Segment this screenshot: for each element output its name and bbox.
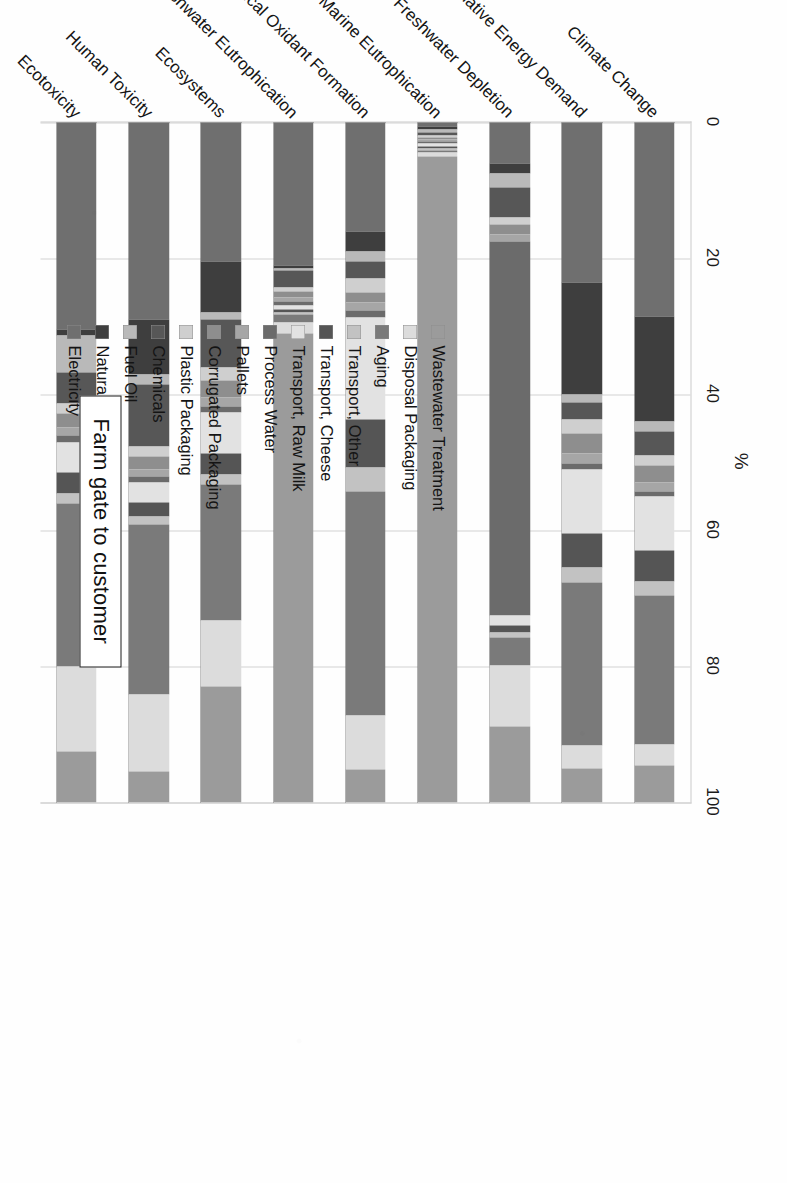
legend-label: Plastic Packaging — [176, 345, 195, 475]
bar-segment — [634, 595, 674, 745]
bar-segment — [489, 163, 529, 173]
bar-segment — [561, 463, 601, 468]
legend-swatch-icon — [95, 325, 108, 338]
bar-segment — [489, 615, 529, 625]
legend-label: Disposal Packaging — [400, 345, 419, 490]
legend-label: Chemicals — [148, 345, 167, 422]
legend-swatch-icon — [67, 325, 80, 338]
legend-label: Transport, Other — [344, 345, 363, 465]
legend-swatch-icon — [319, 325, 332, 338]
category-label: Ecotoxicity — [13, 50, 85, 122]
legend-label: Transport, Raw Milk — [288, 345, 307, 491]
stacked-bar-figure: % 020406080100 Climate ChangeCumulative … — [26, 39, 761, 1144]
bar-segment — [561, 433, 601, 453]
legend-item[interactable]: Pallets — [230, 325, 253, 1085]
legend-item[interactable]: Plastic Packaging — [174, 325, 197, 1085]
legend-item[interactable]: Process Water — [258, 325, 281, 1085]
bar-segment — [561, 533, 601, 567]
bar-segment — [489, 224, 529, 234]
bar-segment — [489, 187, 529, 218]
legend-label: Wastewater Treatment — [428, 345, 447, 510]
legend-swatch-icon — [235, 325, 248, 338]
bar-segment — [489, 632, 529, 637]
legend-swatch-icon — [263, 325, 276, 338]
stacked-bar[interactable] — [634, 122, 674, 802]
bar-segment — [561, 469, 601, 534]
bar-segment — [489, 637, 529, 664]
bar-segment — [634, 455, 674, 465]
axis-title-percent: % — [729, 121, 751, 801]
bar-segment — [345, 302, 385, 310]
category-axis-labels: Climate ChangeCumulative Energy DemandFr… — [111, 39, 761, 121]
figure-title-box: Farm gate to customer — [79, 395, 121, 667]
bar-segment — [561, 745, 601, 767]
bar-segment — [634, 465, 674, 482]
legend-item[interactable]: Aging — [370, 325, 393, 1085]
figure-title: Farm gate to customer — [88, 418, 113, 644]
bar-segment — [273, 297, 313, 301]
legend-item[interactable]: Transport, Raw Milk — [286, 325, 309, 1085]
bar-segment — [489, 625, 529, 632]
bar-segment — [273, 270, 313, 288]
bar-segment — [561, 122, 601, 282]
legend-item[interactable]: Transport, Cheese — [314, 325, 337, 1085]
category-label: Ecosystems — [150, 43, 229, 122]
bar-segment — [634, 496, 674, 550]
bar-segment — [345, 231, 385, 251]
scanned-figure-page: % 020406080100 Climate ChangeCumulative … — [0, 0, 787, 1183]
x-tick-20: 20 — [701, 248, 721, 267]
bar-row — [546, 122, 618, 802]
bar-segment — [489, 122, 529, 163]
x-tick-40: 40 — [701, 384, 721, 403]
legend-label: Process Water — [260, 345, 279, 453]
bar-segment — [417, 122, 457, 126]
legend-swatch-icon — [347, 325, 360, 338]
stacked-bar[interactable] — [489, 122, 529, 802]
legend-swatch-icon — [375, 325, 388, 338]
legend-item[interactable]: Transport, Other — [342, 325, 365, 1085]
bar-segment — [273, 314, 313, 322]
legend-label: Fuel Oil — [120, 345, 139, 402]
legend-swatch-icon — [179, 325, 192, 338]
legend-swatch-icon — [403, 325, 416, 338]
bar-segment — [489, 173, 529, 187]
bar-segment — [345, 292, 385, 302]
x-tick-100: 100 — [701, 787, 721, 815]
x-tick-80: 80 — [701, 656, 721, 675]
bar-segment — [561, 419, 601, 433]
bar-segment — [634, 431, 674, 455]
bar-segment — [561, 567, 601, 582]
bar-segment — [561, 402, 601, 419]
bar-segment — [345, 310, 385, 317]
legend-item[interactable]: Corrugated Packaging — [202, 325, 225, 1085]
bar-segment — [273, 122, 313, 265]
bar-segment — [345, 251, 385, 261]
legend-label: Corrugated Packaging — [204, 345, 223, 509]
stacked-bar[interactable] — [561, 122, 601, 802]
bar-row — [473, 122, 545, 802]
legend-item[interactable]: Chemicals — [146, 325, 169, 1085]
bar-segment — [273, 301, 313, 304]
bar-segment — [489, 241, 529, 615]
bar-segment — [417, 126, 457, 129]
bar-segment — [417, 152, 457, 155]
bar-segment — [634, 550, 674, 581]
bar-segment — [634, 316, 674, 421]
bar-segment — [489, 217, 529, 224]
legend-swatch-icon — [207, 325, 220, 338]
bar-segment — [273, 291, 313, 298]
bar-segment — [634, 765, 674, 802]
legend-label: Transport, Cheese — [316, 345, 335, 481]
bar-segment — [345, 278, 385, 292]
figure-rotation-wrapper: % 020406080100 Climate ChangeCumulative … — [26, 39, 761, 1144]
legend-item[interactable]: Disposal Packaging — [398, 325, 421, 1085]
bar-segment — [128, 122, 168, 319]
legend-item[interactable]: Wastewater Treatment — [426, 325, 449, 1085]
bar-segment — [489, 665, 529, 726]
bar-segment — [273, 305, 313, 309]
legend-swatch-icon — [151, 325, 164, 338]
bar-segment — [200, 312, 240, 319]
bar-segment — [489, 234, 529, 241]
bar-segment — [345, 122, 385, 231]
legend-label: Aging — [372, 345, 391, 387]
